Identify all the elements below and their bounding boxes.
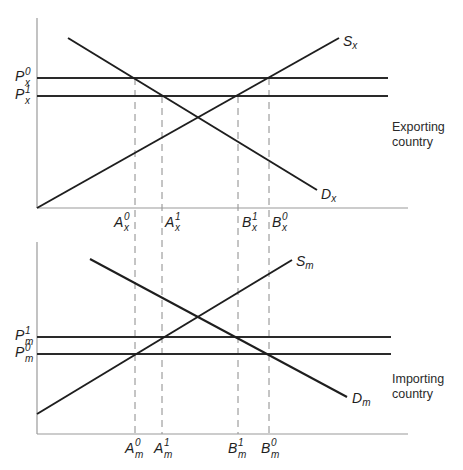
svg-text:P: P [15, 344, 25, 360]
svg-text:P: P [15, 86, 25, 102]
svg-text:1: 1 [25, 84, 31, 95]
label-bm1: B 1 m [228, 437, 246, 460]
svg-text:0: 0 [124, 211, 130, 222]
svg-text:0: 0 [135, 437, 141, 448]
svg-text:1: 1 [25, 325, 31, 336]
importing-panel: Sm Dm P 1 m P 0 m A 0 m A 1 m B 1 m [15, 242, 444, 460]
svg-text:x: x [281, 222, 288, 233]
svg-text:x: x [251, 222, 258, 233]
svg-text:1: 1 [238, 437, 244, 448]
svg-text:x: x [24, 95, 31, 106]
supply-curve-sx [37, 38, 339, 208]
svg-text:0: 0 [271, 437, 277, 448]
svg-text:B: B [272, 214, 281, 230]
demand-curve-dm [90, 259, 347, 397]
caption-importing: Importing [392, 372, 444, 386]
svg-text:m: m [25, 353, 33, 364]
svg-text:A: A [164, 214, 174, 230]
demand-curve-dx [68, 38, 317, 190]
exporting-panel: Sx Dx P 0 x P 1 x A 0 x A 1 x B 1 x [15, 18, 445, 233]
label-sm: Sm [296, 253, 314, 271]
svg-text:P: P [15, 68, 25, 84]
svg-text:A: A [153, 440, 163, 456]
caption-importing-country: country [392, 387, 434, 401]
svg-text:A: A [113, 214, 123, 230]
svg-text:B: B [261, 440, 270, 456]
caption-exporting-country: country [392, 135, 434, 149]
trade-diagram: Sx Dx P 0 x P 1 x A 0 x A 1 x B 1 x [0, 0, 463, 470]
label-am0: A 0 m [124, 437, 143, 460]
label-dx: Dx [321, 186, 337, 204]
svg-text:m: m [271, 449, 279, 460]
label-bx1: B 1 x [242, 211, 258, 233]
label-ax0: A 0 x [113, 211, 130, 233]
label-bx0: B 0 x [272, 211, 288, 233]
svg-text:B: B [228, 440, 237, 456]
label-am1: A 1 m [153, 437, 172, 460]
label-ax1: A 1 x [164, 211, 181, 233]
svg-text:m: m [238, 449, 246, 460]
svg-text:0: 0 [25, 66, 31, 77]
svg-text:0: 0 [25, 342, 31, 353]
svg-text:1: 1 [164, 437, 170, 448]
svg-text:x: x [123, 222, 130, 233]
label-dm: Dm [352, 390, 370, 408]
svg-text:B: B [242, 214, 251, 230]
svg-text:A: A [124, 440, 134, 456]
svg-text:1: 1 [175, 211, 181, 222]
caption-exporting: Exporting [392, 120, 445, 134]
svg-text:x: x [174, 222, 181, 233]
svg-text:m: m [135, 449, 143, 460]
svg-text:P: P [15, 327, 25, 343]
svg-text:m: m [164, 449, 172, 460]
label-sx: Sx [343, 33, 358, 51]
svg-text:1: 1 [252, 211, 258, 222]
quantity-guides [135, 78, 269, 434]
label-px1: P 1 x [15, 84, 31, 106]
svg-text:0: 0 [282, 211, 288, 222]
label-bm0: B 0 m [261, 437, 279, 460]
